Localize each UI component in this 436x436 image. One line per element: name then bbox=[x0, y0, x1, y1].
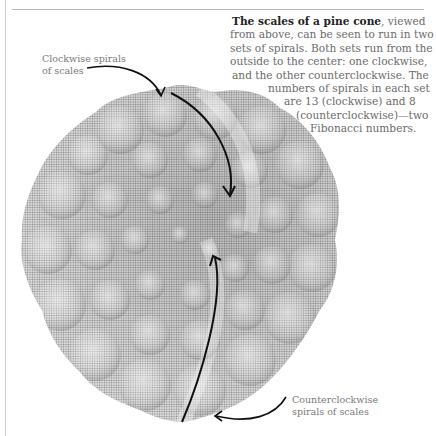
main-caption: The scales of a pine cone, viewed from a… bbox=[230, 15, 426, 136]
counterclockwise-label: Counterclockwise spirals of scales bbox=[292, 394, 412, 418]
caption-lead: The scales of a pine cone bbox=[232, 15, 381, 27]
clockwise-label: Clockwise spirals of scales bbox=[42, 53, 152, 77]
